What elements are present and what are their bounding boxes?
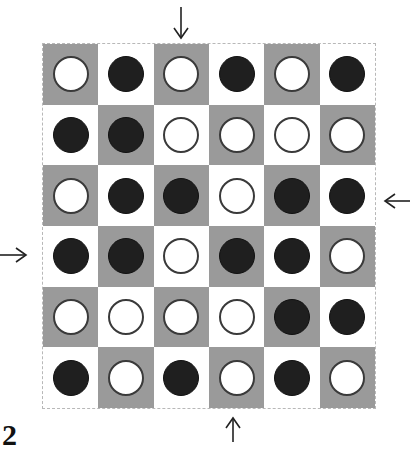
board-cell-r4-c2[interactable]	[98, 226, 153, 287]
board-cell-r1-c4[interactable]	[209, 44, 264, 105]
board-cell-r3-c1[interactable]	[43, 165, 98, 226]
black-piece[interactable]	[53, 117, 89, 153]
black-piece[interactable]	[274, 238, 310, 274]
board-cell-r4-c3[interactable]	[154, 226, 209, 287]
board-cell-r5-c6[interactable]	[320, 287, 375, 348]
black-piece[interactable]	[329, 56, 365, 92]
white-piece[interactable]	[108, 360, 144, 396]
board-cell-r6-c4[interactable]	[209, 347, 264, 408]
black-piece[interactable]	[274, 178, 310, 214]
board-cell-r2-c1[interactable]	[43, 105, 98, 166]
white-piece[interactable]	[219, 299, 255, 335]
white-piece[interactable]	[329, 360, 365, 396]
board-cell-r1-c3[interactable]	[154, 44, 209, 105]
black-piece[interactable]	[329, 299, 365, 335]
black-piece[interactable]	[108, 178, 144, 214]
arrow-left-pointing-right-icon	[0, 246, 28, 264]
black-piece[interactable]	[163, 360, 199, 396]
board-cell-r6-c6[interactable]	[320, 347, 375, 408]
white-piece[interactable]	[274, 56, 310, 92]
white-piece[interactable]	[53, 56, 89, 92]
board-cell-r3-c3[interactable]	[154, 165, 209, 226]
board-cell-r4-c1[interactable]	[43, 226, 98, 287]
board-cell-r5-c3[interactable]	[154, 287, 209, 348]
white-piece[interactable]	[163, 117, 199, 153]
black-piece[interactable]	[219, 238, 255, 274]
game-board	[43, 44, 375, 408]
board-cell-r2-c2[interactable]	[98, 105, 153, 166]
board-cell-r1-c6[interactable]	[320, 44, 375, 105]
board-cell-r1-c5[interactable]	[264, 44, 319, 105]
board-cell-r5-c2[interactable]	[98, 287, 153, 348]
board-cell-r6-c5[interactable]	[264, 347, 319, 408]
black-piece[interactable]	[274, 360, 310, 396]
board-cell-r3-c2[interactable]	[98, 165, 153, 226]
board-cell-r6-c2[interactable]	[98, 347, 153, 408]
white-piece[interactable]	[219, 360, 255, 396]
black-piece[interactable]	[219, 56, 255, 92]
white-piece[interactable]	[329, 238, 365, 274]
black-piece[interactable]	[53, 238, 89, 274]
white-piece[interactable]	[329, 117, 365, 153]
black-piece[interactable]	[108, 238, 144, 274]
arrow-top-down-icon	[172, 6, 190, 40]
board-cell-r3-c6[interactable]	[320, 165, 375, 226]
figure-label: 2	[2, 420, 17, 449]
arrow-right-pointing-left-icon	[383, 192, 410, 210]
black-piece[interactable]	[329, 178, 365, 214]
white-piece[interactable]	[53, 299, 89, 335]
black-piece[interactable]	[108, 56, 144, 92]
white-piece[interactable]	[163, 238, 199, 274]
board-cell-r2-c4[interactable]	[209, 105, 264, 166]
white-piece[interactable]	[219, 178, 255, 214]
board-cell-r1-c1[interactable]	[43, 44, 98, 105]
board-cell-r3-c4[interactable]	[209, 165, 264, 226]
black-piece[interactable]	[53, 360, 89, 396]
black-piece[interactable]	[108, 117, 144, 153]
board-cell-r6-c3[interactable]	[154, 347, 209, 408]
black-piece[interactable]	[274, 299, 310, 335]
board-cell-r5-c1[interactable]	[43, 287, 98, 348]
white-piece[interactable]	[219, 117, 255, 153]
board-cell-r4-c4[interactable]	[209, 226, 264, 287]
board-cell-r3-c5[interactable]	[264, 165, 319, 226]
board-cell-r4-c5[interactable]	[264, 226, 319, 287]
board-cell-r6-c1[interactable]	[43, 347, 98, 408]
board-cell-r5-c5[interactable]	[264, 287, 319, 348]
white-piece[interactable]	[53, 178, 89, 214]
board-cell-r4-c6[interactable]	[320, 226, 375, 287]
white-piece[interactable]	[163, 299, 199, 335]
white-piece[interactable]	[274, 117, 310, 153]
white-piece[interactable]	[108, 299, 144, 335]
arrow-bottom-up-icon	[224, 416, 242, 442]
board-cell-r1-c2[interactable]	[98, 44, 153, 105]
board-cell-r2-c5[interactable]	[264, 105, 319, 166]
board-cell-r2-c3[interactable]	[154, 105, 209, 166]
black-piece[interactable]	[163, 178, 199, 214]
board-cell-r5-c4[interactable]	[209, 287, 264, 348]
white-piece[interactable]	[163, 56, 199, 92]
board-cell-r2-c6[interactable]	[320, 105, 375, 166]
